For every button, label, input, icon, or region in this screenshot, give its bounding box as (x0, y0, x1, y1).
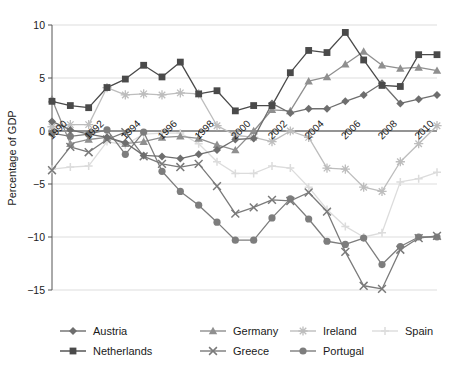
data-point-asterisk (286, 126, 295, 135)
data-point-square (415, 51, 422, 58)
data-point-asterisk (396, 157, 405, 166)
data-point-circle (268, 214, 275, 221)
legend-label: Austria (93, 325, 128, 337)
data-point-square (122, 76, 129, 83)
data-point-circle (378, 261, 385, 268)
data-point-asterisk (176, 88, 185, 97)
data-point-square (214, 87, 221, 94)
data-point-square (397, 83, 404, 90)
data-point-circle (250, 237, 257, 244)
data-point-square (305, 47, 312, 54)
data-point-asterisk (377, 187, 386, 196)
y-axis-label: Percentage of GDP (6, 110, 18, 205)
data-point-asterisk (157, 90, 166, 99)
data-point-asterisk (139, 89, 148, 98)
y-tick-label: 5 (39, 72, 45, 84)
legend-label: Germany (233, 325, 279, 337)
data-point-square (379, 82, 386, 89)
data-point-square (324, 49, 331, 56)
data-point-circle (360, 234, 367, 241)
chart-container: 1050−5−10−15 199019921994199619982000200… (0, 0, 460, 371)
y-tick-label: −5 (33, 178, 45, 190)
data-point-circle (158, 168, 165, 175)
data-point-square (342, 29, 349, 36)
data-point-circle (305, 215, 312, 222)
data-point-square (360, 57, 367, 64)
data-point-square (269, 102, 276, 109)
data-point-square (250, 102, 257, 109)
data-point-circle (299, 347, 306, 354)
data-point-circle (213, 219, 220, 226)
data-point-square (140, 62, 147, 69)
chart-background (0, 0, 460, 371)
y-tick-label: 10 (33, 19, 45, 31)
data-point-circle (177, 188, 184, 195)
data-point-circle (140, 128, 147, 135)
data-point-square (177, 59, 184, 66)
y-tick-label: −15 (27, 284, 45, 296)
data-point-square (104, 84, 111, 91)
data-point-asterisk (298, 326, 307, 335)
data-point-square (434, 51, 441, 58)
data-point-square (195, 91, 202, 98)
legend-label: Greece (233, 345, 269, 357)
legend-label: Portugal (323, 345, 364, 357)
data-point-asterisk (322, 164, 331, 173)
data-point-square (49, 98, 56, 105)
data-point-circle (232, 237, 239, 244)
data-point-circle (122, 151, 129, 158)
data-point-asterisk (359, 183, 368, 192)
data-point-square (232, 107, 239, 114)
data-point-asterisk (341, 165, 350, 174)
gdp-line-chart: 1050−5−10−15 199019921994199619982000200… (0, 0, 460, 371)
legend-label: Spain (405, 325, 433, 337)
legend-label: Netherlands (93, 345, 153, 357)
data-point-asterisk (121, 90, 130, 99)
y-tick-label: 0 (39, 125, 45, 137)
data-point-square (159, 74, 166, 81)
data-point-square (70, 348, 77, 355)
y-tick-label: −10 (27, 231, 45, 243)
data-point-square (287, 69, 294, 76)
data-point-circle (195, 202, 202, 209)
data-point-circle (323, 238, 330, 245)
legend-label: Ireland (323, 325, 357, 337)
data-point-square (85, 104, 92, 111)
data-point-square (67, 102, 74, 109)
data-point-circle (103, 126, 110, 133)
